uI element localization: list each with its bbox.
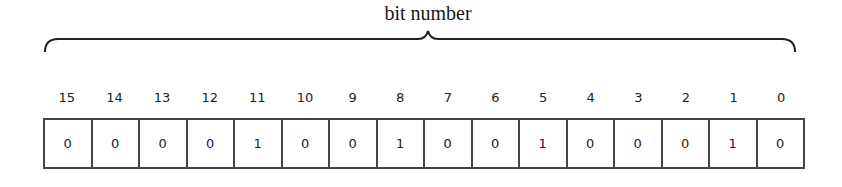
bit-number: 11 (234, 88, 282, 108)
bit-number: 15 (43, 88, 91, 108)
bit-cell: 1 (518, 120, 566, 167)
bit-cell: 0 (661, 120, 709, 167)
bit-number: 4 (567, 88, 615, 108)
bit-cell: 0 (328, 120, 376, 167)
bit-number: 8 (376, 88, 424, 108)
bit-cell: 1 (708, 120, 756, 167)
bit-cell: 0 (281, 120, 329, 167)
bit-cell: 0 (566, 120, 614, 167)
bit-cell: 0 (45, 120, 91, 167)
register-bit-cells: 0 0 0 0 1 0 0 1 0 0 1 0 0 0 1 0 (43, 118, 805, 169)
bit-cell: 1 (376, 120, 424, 167)
bit-cell: 0 (613, 120, 661, 167)
bit-number: 5 (519, 88, 567, 108)
bit-number: 1 (710, 88, 758, 108)
bit-cell: 0 (471, 120, 519, 167)
bit-number: 6 (472, 88, 520, 108)
bit-cell: 0 (186, 120, 234, 167)
bit-cell: 0 (756, 120, 804, 167)
bit-cell: 0 (423, 120, 471, 167)
bit-cell: 1 (233, 120, 281, 167)
bit-number: 14 (91, 88, 139, 108)
bit-number: 12 (186, 88, 234, 108)
bit-cell: 0 (91, 120, 139, 167)
bit-number: 13 (138, 88, 186, 108)
bit-number: 3 (615, 88, 663, 108)
bit-number: 10 (281, 88, 329, 108)
bit-number: 7 (424, 88, 472, 108)
bit-number: 0 (757, 88, 805, 108)
bit-cell: 0 (138, 120, 186, 167)
bit-number: 9 (329, 88, 377, 108)
curly-brace (0, 0, 842, 60)
bit-number: 2 (662, 88, 710, 108)
bit-number-row: 15 14 13 12 11 10 9 8 7 6 5 4 3 2 1 0 (43, 88, 805, 108)
